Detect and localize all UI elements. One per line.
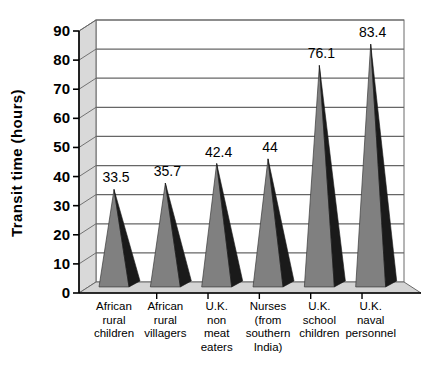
y-axis-tick-label: 60 — [53, 109, 70, 126]
category-label-line: meat — [204, 327, 230, 339]
category-label-line: personnel — [345, 327, 396, 339]
category-label-line: Nurses — [250, 300, 287, 312]
category-label-line: non — [207, 314, 226, 326]
y-axis-tick-label: 30 — [53, 197, 70, 214]
category-label-line: (from — [255, 314, 282, 326]
plot-back-wall — [96, 20, 404, 282]
bar-value-label: 76.1 — [308, 45, 335, 61]
bar-value-label: 83.4 — [359, 24, 386, 40]
y-axis-tick-label: 10 — [53, 255, 70, 272]
plot-left-wall — [79, 20, 96, 293]
y-axis-tick-label: 80 — [53, 51, 70, 68]
category-label-line: rural — [103, 314, 126, 326]
category-label-line: southern — [246, 327, 291, 339]
y-axis-tick-label: 90 — [53, 22, 70, 39]
y-axis-tick-label: 70 — [53, 80, 70, 97]
y-axis-tick-label: 40 — [53, 168, 70, 185]
bar-chart-figure: 0102030405060708090 33.535.742.44476.183… — [0, 0, 429, 372]
category-label-line: rural — [154, 314, 177, 326]
y-axis-title-text: Transit time (hours) — [8, 89, 25, 237]
y-axis-tick-label: 0 — [62, 284, 70, 301]
category-label-line: villagers — [144, 327, 186, 339]
category-label-line: U.K. — [205, 300, 227, 312]
category-label-line: eaters — [201, 341, 233, 353]
bar-value-label: 35.7 — [154, 163, 181, 179]
category-label-line: India) — [254, 341, 283, 353]
category-label-line: children — [299, 327, 339, 339]
bar-value-label: 44 — [262, 139, 278, 155]
category-label-line: school — [303, 314, 336, 326]
category-label-line: U.K. — [308, 300, 330, 312]
chart-svg: 0102030405060708090 33.535.742.44476.183… — [0, 0, 429, 372]
category-label-line: African — [147, 300, 183, 312]
y-axis-title: Transit time (hours) — [8, 89, 25, 237]
y-axis-tick-label: 50 — [53, 138, 70, 155]
category-label-line: U.K. — [359, 300, 381, 312]
bar-value-label: 33.5 — [102, 169, 129, 185]
bar-value-label: 42.4 — [205, 144, 232, 160]
category-label-line: African — [96, 300, 132, 312]
y-axis-tick-label: 20 — [53, 226, 70, 243]
category-label-line: naval — [357, 314, 385, 326]
category-label-line: children — [94, 327, 134, 339]
